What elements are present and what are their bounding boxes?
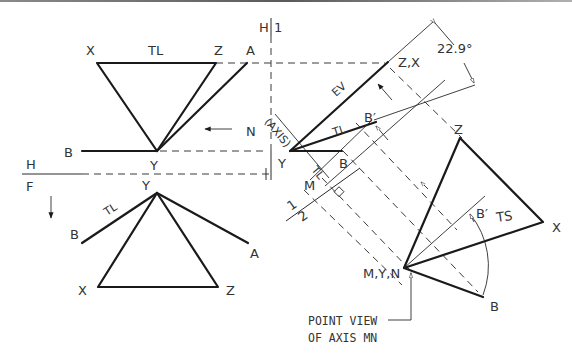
label-b-prime-aux2: B′ — [476, 206, 488, 221]
line-yb-front — [82, 193, 157, 243]
front-view: Y TL B A X Z — [51, 178, 259, 298]
angle-leg-1 — [374, 85, 475, 120]
label-axis: (AXIS) — [262, 116, 294, 150]
edge-view-line — [290, 62, 388, 151]
label-x: X — [86, 43, 95, 58]
label-b-aux: B — [339, 156, 348, 171]
line-ya-top — [157, 63, 247, 151]
label-tl: TL — [147, 43, 164, 58]
label-tl-front: TL — [101, 200, 120, 219]
label-point-view: M,Y,N — [363, 266, 400, 281]
label-y-front: Y — [141, 178, 150, 193]
rotation-arc — [470, 214, 488, 295]
triangle-xyz-top — [97, 63, 216, 151]
label-a: A — [246, 43, 255, 58]
note-point-view-line1: POINT VIEW — [308, 314, 377, 328]
label-ev: EV — [329, 80, 349, 100]
fold-label-h1-h: H — [259, 20, 269, 35]
label-b: B — [64, 145, 73, 160]
label-n: N — [246, 124, 256, 139]
label-y: Y — [149, 158, 158, 173]
label-b-aux2: B — [490, 299, 499, 314]
label-ts: TS — [494, 208, 513, 225]
arrow-ev-icon — [378, 84, 392, 100]
label-b-prime: B′ — [364, 110, 376, 125]
fold-label-h: H — [26, 157, 36, 172]
label-a-front: A — [250, 246, 259, 261]
label-x-front: X — [78, 283, 87, 298]
top-view: X TL Z A B Y N — [64, 43, 256, 173]
label-b-front: B — [70, 227, 79, 242]
auxiliary-view-1: Z,X 22.9° EV TL B′ B Y M TL (AXIS) — [262, 21, 475, 197]
label-y-aux: Y — [277, 156, 286, 171]
label-z-aux2: Z — [454, 122, 463, 137]
fold-label-12-2: 2 — [295, 207, 310, 224]
fold-label-f: F — [26, 179, 33, 194]
label-z: Z — [214, 43, 223, 58]
label-m: M — [304, 178, 315, 193]
triangle-xyz-true-shape — [404, 138, 543, 268]
line-yb-aux2 — [404, 268, 483, 297]
label-angle: 22.9° — [437, 41, 472, 56]
descriptive-geometry-drawing: X TL Z A B Y N H F H 1 1 2 Y TL B A X Z — [0, 0, 572, 363]
note-point-view-line2: OF AXIS MN — [308, 331, 377, 345]
label-x-aux2: X — [552, 220, 561, 235]
line-ya-front — [157, 193, 248, 243]
label-z-front: Z — [226, 283, 235, 298]
label-zx: Z,X — [398, 55, 420, 70]
fold-label-h1-1: 1 — [274, 20, 282, 35]
